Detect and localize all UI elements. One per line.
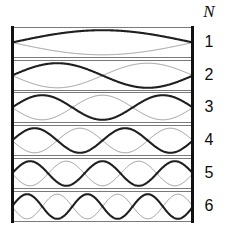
harmonic-label-1: 1 (196, 32, 222, 52)
harmonic-label-3: 3 (196, 97, 222, 117)
faint-wave-trace-3 (12, 95, 193, 120)
harmonic-label-6: 6 (196, 196, 222, 216)
fixed-end-wall-left-6 (11, 190, 14, 223)
fixed-end-wall-left-1 (11, 26, 14, 59)
fixed-end-wall-right-5 (191, 157, 194, 190)
standing-wave-harmonics-figure: N 123456 (0, 0, 228, 235)
fixed-end-wall-left-5 (11, 157, 14, 190)
wave-plot-5 (12, 158, 193, 189)
wave-plot-3 (12, 92, 193, 123)
fixed-end-wall-left-3 (11, 91, 14, 124)
fixed-end-wall-right-2 (191, 59, 194, 92)
wave-plot-4 (12, 125, 193, 156)
bold-wave-trace-4 (12, 128, 193, 153)
column-header-n: N (196, 2, 222, 22)
harmonic-row-3: 3 (0, 92, 228, 123)
bold-wave-trace-6 (12, 194, 193, 219)
wave-plot-6 (12, 191, 193, 222)
fixed-end-wall-right-4 (191, 124, 194, 157)
bold-wave-trace-3 (12, 95, 193, 120)
harmonic-label-2: 2 (196, 65, 222, 85)
fixed-end-wall-right-6 (191, 190, 194, 223)
harmonic-label-4: 4 (196, 130, 222, 150)
fixed-end-wall-left-2 (11, 59, 14, 92)
fixed-end-wall-left-4 (11, 124, 14, 157)
wave-plot-2 (12, 60, 193, 91)
bold-wave-trace-1 (12, 30, 193, 42)
fixed-end-wall-right-3 (191, 91, 194, 124)
fixed-end-wall-right-1 (191, 26, 194, 59)
wave-plot-1 (12, 27, 193, 58)
harmonic-label-5: 5 (196, 163, 222, 183)
bold-wave-trace-2 (12, 63, 193, 88)
harmonic-row-5: 5 (0, 158, 228, 189)
harmonic-row-6: 6 (0, 191, 228, 222)
faint-wave-trace-1 (12, 43, 193, 55)
harmonic-row-1: 1 (0, 27, 228, 58)
harmonic-row-4: 4 (0, 125, 228, 156)
harmonic-row-2: 2 (0, 60, 228, 91)
